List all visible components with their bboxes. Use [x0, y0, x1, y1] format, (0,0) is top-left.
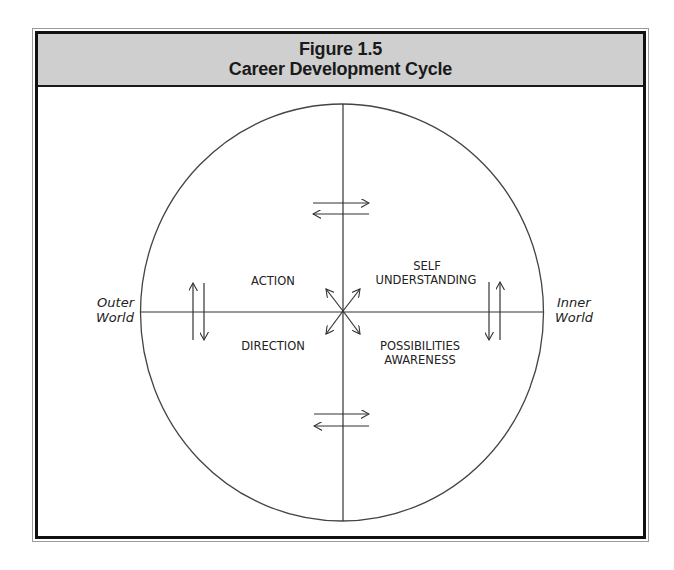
- quadrant-label-self: SELF: [413, 259, 441, 273]
- quadrant-label-action: ACTION: [251, 274, 295, 288]
- outer-world-label-line2: World: [96, 310, 135, 325]
- bottom-exchange-arrows-icon: [314, 414, 369, 426]
- quadrant-label-possibilities: POSSIBILITIES: [380, 339, 460, 353]
- inner-world-label-line2: World: [555, 310, 594, 325]
- right-exchange-arrows-icon: [489, 282, 500, 340]
- top-exchange-arrows-icon: [313, 203, 369, 214]
- quadrant-label-understanding: UNDERSTANDING: [376, 273, 477, 287]
- quadrant-label-awareness: AWARENESS: [384, 353, 456, 367]
- quadrant-label-direction: DIRECTION: [241, 339, 305, 353]
- career-cycle-diagram: ACTION DIRECTION SELF UNDERSTANDING POSS…: [0, 0, 674, 570]
- outer-world-label-line1: Outer: [97, 295, 136, 310]
- inner-world-label-line1: Inner: [557, 295, 592, 310]
